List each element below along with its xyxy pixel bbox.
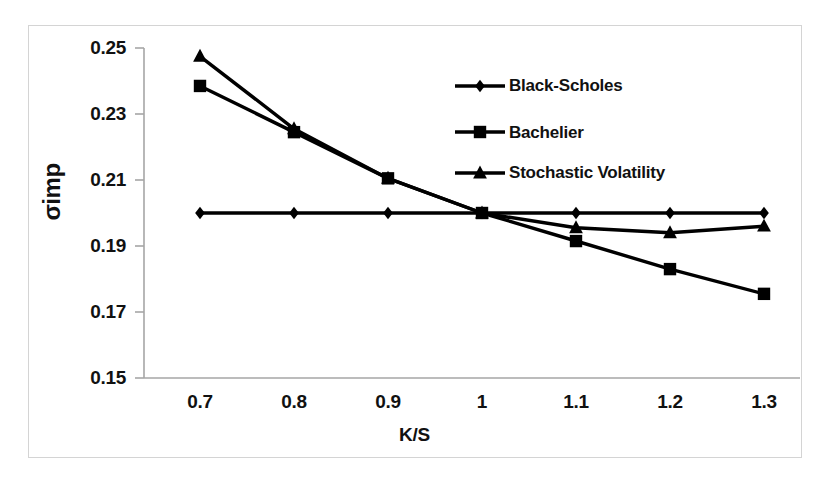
legend-marker-diamond xyxy=(455,80,505,92)
data-point-diamond xyxy=(289,207,299,219)
data-point-square xyxy=(570,235,582,247)
data-point-diamond xyxy=(571,207,581,219)
legend-marker-triangle xyxy=(455,166,505,179)
legend-marker-square xyxy=(455,126,505,138)
legend-marker-layer xyxy=(455,80,505,179)
chart-figure: σimp 0.25 0.23 0.21 0.19 0.17 0.15 0.7 0… xyxy=(0,0,829,479)
data-point-triangle xyxy=(193,49,207,62)
data-point-diamond xyxy=(195,207,205,219)
data-point-square xyxy=(758,288,770,300)
data-point-diamond xyxy=(665,207,675,219)
data-point-diamond xyxy=(383,207,393,219)
data-point-square xyxy=(664,263,676,275)
data-point-square xyxy=(194,80,206,92)
plot-area xyxy=(0,0,829,479)
data-point-diamond xyxy=(759,207,769,219)
series-bachelier xyxy=(194,80,770,300)
series-stochastic-volatility xyxy=(193,49,771,238)
